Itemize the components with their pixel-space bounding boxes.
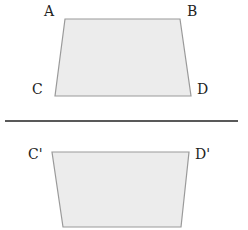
label-b: B [187, 3, 197, 19]
label-d: D [197, 81, 208, 97]
label-d-prime: D' [195, 146, 210, 162]
label-c-prime: C' [28, 146, 43, 162]
reflection-diagram: A B C D C' D' [0, 0, 248, 230]
reflected-trapezoid [52, 152, 189, 227]
original-trapezoid [55, 19, 191, 96]
label-a: A [43, 3, 55, 19]
label-c: C [32, 81, 43, 97]
